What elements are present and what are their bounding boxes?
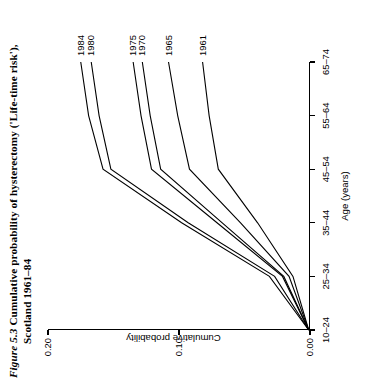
- series-label-1965: 1965: [164, 35, 173, 56]
- x-tick-label: 10–24: [321, 303, 331, 357]
- series-lines: [48, 62, 310, 330]
- figure-number: Figure 5.3: [7, 329, 19, 379]
- x-tick: [310, 329, 315, 330]
- figure-caption-line1: Cumulative probability of hysterectomy (…: [7, 44, 19, 325]
- y-tick-label: 0.00: [305, 338, 314, 374]
- x-tick-label: 55–64: [321, 89, 331, 143]
- x-tick: [310, 61, 315, 62]
- figure-caption: Figure 5.3 Cumulative probability of hys…: [6, 12, 34, 378]
- x-tick-label: 25–34: [321, 249, 331, 303]
- x-tick: [310, 169, 315, 170]
- series-label-1970: 1970: [137, 35, 146, 56]
- y-tick: [309, 330, 310, 335]
- x-tick-label: 35–44: [321, 196, 331, 250]
- figure-stage: Figure 5.3 Cumulative probability of hys…: [0, 0, 376, 392]
- x-axis-title: Age (years): [339, 62, 350, 330]
- series-label-1984: 1984: [76, 35, 85, 56]
- plot-area: 0.000.100.20 10–2425–3435–4445–5455–6465…: [48, 62, 310, 330]
- x-tick-label: 65–74: [321, 35, 331, 89]
- series-line-1961: [203, 62, 309, 330]
- series-label-1961: 1961: [198, 35, 207, 56]
- series-label-1975: 1975: [128, 35, 137, 56]
- series-line-1975: [133, 62, 309, 330]
- figure-caption-line2: Scotland 1961–84: [20, 12, 34, 344]
- x-tick: [310, 115, 315, 116]
- series-line-1984: [81, 62, 309, 330]
- series-label-1980: 1980: [86, 35, 95, 56]
- x-tick: [310, 276, 315, 277]
- y-axis-title: Cumulative probability: [43, 333, 305, 344]
- x-tick-label: 45–54: [321, 142, 331, 196]
- x-tick: [310, 222, 315, 223]
- series-line-1980: [91, 62, 308, 330]
